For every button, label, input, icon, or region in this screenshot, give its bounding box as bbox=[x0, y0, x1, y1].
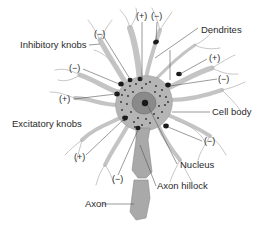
axon-shape bbox=[130, 180, 150, 220]
symbol-top-minus: (−) bbox=[151, 11, 162, 21]
symbol-upper-left-minus: (−) bbox=[94, 29, 105, 39]
label-nucleus: Nucleus bbox=[180, 159, 215, 170]
label-dendrites: Dendrites bbox=[201, 24, 242, 35]
label-cell-body: Cell body bbox=[212, 106, 252, 117]
symbol-right-plus: (+) bbox=[209, 53, 220, 63]
nucleolus bbox=[142, 100, 148, 106]
symbol-top-plus: (+) bbox=[136, 11, 147, 21]
label-axon: Axon bbox=[85, 198, 107, 209]
label-axon-hillock: Axon hillock bbox=[157, 180, 208, 191]
symbol-bottom-minus: (−) bbox=[112, 174, 123, 184]
symbol-lower-right-minus: (−) bbox=[204, 136, 215, 146]
symbol-left-plus: (+) bbox=[59, 94, 70, 104]
symbol-lower-left-plus: (+) bbox=[74, 152, 85, 162]
label-inhibitory-knobs: Inhibitory knobs bbox=[20, 39, 87, 50]
symbol-left-minus: (−) bbox=[69, 63, 80, 73]
symbol-right-minus: (−) bbox=[218, 74, 229, 84]
axon-hillock-shape bbox=[132, 128, 152, 178]
label-excitatory-knobs: Excitatory knobs bbox=[12, 118, 82, 129]
neuron-diagram: Dendrites Inhibitory knobs Cell body Exc… bbox=[0, 0, 259, 231]
